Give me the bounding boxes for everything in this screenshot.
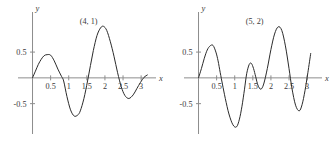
chart-panel-right: 0.511.522.53 0.5-0.5 x y (5, 2) <box>166 0 332 141</box>
y-axis-label: y <box>35 3 40 13</box>
chart-annotation-label: (5, 2) <box>246 17 264 26</box>
data-curve <box>199 27 311 128</box>
axes-right <box>184 12 322 134</box>
x-tick-labels: 0.511.522.53 <box>46 82 144 91</box>
svg-text:2: 2 <box>269 82 273 91</box>
chart-annotation-label: (4, 1) <box>80 17 98 26</box>
svg-text:-0.5: -0.5 <box>14 100 27 109</box>
y-axis-label: y <box>201 3 206 13</box>
svg-text:0.5: 0.5 <box>212 82 222 91</box>
chart-panel-left: 0.511.522.53 0.5-0.5 x y (4, 1) <box>0 0 166 141</box>
chart-left-svg: 0.511.522.53 0.5-0.5 x y (4, 1) <box>0 0 166 141</box>
svg-text:0.5: 0.5 <box>182 48 192 57</box>
chart-right-svg: 0.511.522.53 0.5-0.5 x y (5, 2) <box>166 0 332 141</box>
svg-text:1: 1 <box>233 82 237 91</box>
data-curve <box>33 26 148 116</box>
svg-text:0.5: 0.5 <box>16 48 26 57</box>
svg-text:1: 1 <box>67 82 71 91</box>
svg-text:1.5: 1.5 <box>248 82 258 91</box>
svg-text:0.5: 0.5 <box>46 82 56 91</box>
figure-container: 0.511.522.53 0.5-0.5 x y (4, 1) 0.511.52… <box>0 0 332 141</box>
svg-text:2: 2 <box>103 82 107 91</box>
axes-left <box>18 12 156 134</box>
svg-text:2.5: 2.5 <box>118 82 128 91</box>
svg-text:-0.5: -0.5 <box>180 100 193 109</box>
x-axis-label: x <box>324 73 329 83</box>
x-axis-label: x <box>158 73 163 83</box>
